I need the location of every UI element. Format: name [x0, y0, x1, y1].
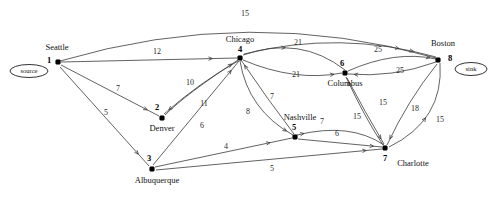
- edge-5-to-7: 6: [298, 129, 382, 148]
- edge-8-to-6: 25: [348, 62, 436, 76]
- edge-line: [61, 65, 159, 116]
- node-dot[interactable]: [343, 71, 348, 76]
- node-number-label: 8: [448, 53, 452, 63]
- edge-weight-label: 10: [186, 78, 194, 87]
- edge-weight-label: 21: [294, 38, 302, 47]
- node-number-label: 1: [47, 55, 51, 65]
- node-dot[interactable]: [160, 116, 165, 121]
- edge-line: [348, 56, 436, 71]
- node-dot[interactable]: [436, 58, 441, 63]
- edge-weight-label: 25: [374, 45, 382, 54]
- edge-weight-label: 15: [436, 115, 444, 124]
- edge-4-to-5: 8: [240, 61, 293, 135]
- edge-weight-label: 5: [270, 164, 274, 173]
- edge-weight-label: 25: [396, 66, 404, 75]
- node-dot[interactable]: [56, 60, 61, 65]
- node-dot[interactable]: [150, 167, 155, 172]
- edge-weight-label: 15: [379, 98, 387, 107]
- edge-line: [348, 62, 436, 75]
- node-city-label: Seattle: [45, 42, 68, 52]
- node-city-label: Boston: [431, 38, 456, 48]
- edge-4-to-6: 21: [243, 60, 342, 79]
- node-number-label: 5: [292, 122, 296, 132]
- edge-weight-label: 12: [153, 47, 161, 56]
- edge-weight-label: 18: [411, 104, 419, 113]
- edge-weight-label: 7: [320, 117, 324, 126]
- edge-4-to-8: [244, 43, 436, 57]
- edge-weight-label: 7: [116, 84, 120, 93]
- edge-line: [244, 43, 436, 57]
- edge-6-to-8: 25: [348, 45, 436, 71]
- node-number-label: 2: [155, 102, 159, 112]
- edge-weight-label: 15: [353, 112, 361, 121]
- edge-1-to-4: 12: [61, 47, 237, 62]
- node-number-label: 3: [147, 153, 151, 163]
- node-5-nashville[interactable]: 5Nashville: [284, 112, 317, 139]
- edge-line: [241, 60, 294, 134]
- node-number-label: 7: [383, 153, 388, 163]
- node-7-charlotte[interactable]: 7Charlotte: [383, 146, 429, 168]
- node-dot[interactable]: [383, 146, 388, 151]
- edge-line: [61, 58, 237, 62]
- edge-weight-label: 21: [292, 70, 300, 79]
- network-flow-graph: 151275101168721212525764515151815 1Seatt…: [0, 0, 495, 199]
- node-city-label: Albuquerque: [135, 175, 180, 185]
- edge-3-to-5: 4: [155, 138, 292, 167]
- node-city-label: Charlotte: [397, 158, 429, 168]
- edge-weight-label: 6: [335, 129, 339, 138]
- edge-weight-label: 8: [246, 107, 250, 116]
- node-city-label: Chicago: [226, 34, 254, 44]
- edge-weight-label: 15: [241, 9, 249, 18]
- node-city-label: Denver: [149, 123, 174, 133]
- node-city-label: Nashville: [284, 112, 317, 122]
- edge-weight-label: 5: [104, 108, 108, 117]
- edge-1-to-2: 7: [61, 65, 159, 116]
- terminal-sink: sink: [455, 63, 487, 76]
- edge-1-to-3: 5: [60, 67, 149, 166]
- node-4-chicago[interactable]: 4Chicago: [226, 34, 254, 60]
- source-label: source: [21, 67, 38, 74]
- node-city-label: Columbus: [328, 78, 363, 88]
- edge-8-to-7: 18: [387, 64, 437, 145]
- edge-weight-label: 6: [200, 121, 204, 130]
- node-number-label: 4: [238, 44, 243, 54]
- diagram-canvas: 151275101168721212525764515151815 1Seatt…: [0, 0, 495, 199]
- edge-line: [298, 139, 382, 147]
- edge-5-to-4: 7: [241, 60, 294, 134]
- edge-weight-label: 7: [270, 92, 274, 101]
- node-dot[interactable]: [238, 56, 243, 61]
- node-2-denver[interactable]: 2Denver: [149, 102, 174, 133]
- edge-line: [240, 61, 293, 135]
- node-dot[interactable]: [293, 135, 298, 140]
- node-number-label: 6: [340, 58, 344, 68]
- terminal-source: source: [10, 65, 48, 78]
- sink-label: sink: [466, 65, 478, 72]
- node-8-boston[interactable]: 8Boston: [431, 38, 456, 63]
- edge-3-to-7: 5: [156, 149, 382, 173]
- edge-weight-label: 4: [224, 142, 228, 151]
